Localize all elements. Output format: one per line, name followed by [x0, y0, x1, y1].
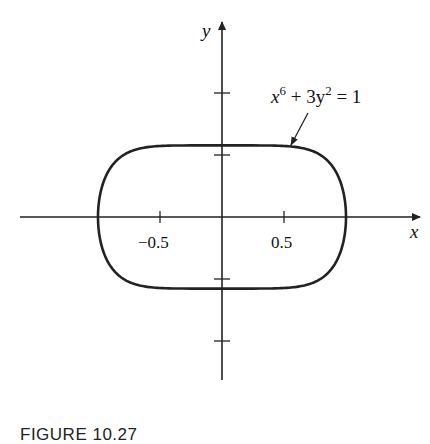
- eq-rhs: = 1: [332, 86, 362, 107]
- y-axis-label: y: [200, 20, 211, 41]
- x-axis-label: x: [409, 221, 419, 242]
- figure-caption: FIGURE 10.27: [20, 425, 138, 444]
- equation-label: x6 + 3y2 = 1: [270, 83, 361, 107]
- x-tick-label-neg-half: −0.5: [138, 233, 169, 252]
- eq-middle: + 3y: [286, 86, 326, 107]
- x-tick-label-half: 0.5: [271, 233, 292, 252]
- equation-pointer-arrow: [291, 113, 308, 145]
